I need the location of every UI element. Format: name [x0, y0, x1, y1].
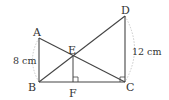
measure-ab: 8 cm [13, 55, 36, 66]
right-angle-mark-f [73, 77, 78, 82]
geometry-diagram: A B C D E F 8 cm 12 cm [0, 0, 169, 100]
label-d: D [121, 4, 130, 17]
label-a: A [32, 26, 42, 39]
measure-cd: 12 cm [132, 46, 161, 57]
label-b: B [28, 81, 36, 94]
label-e: E [68, 44, 76, 57]
label-f: F [69, 87, 77, 100]
segment-bd [39, 16, 125, 82]
segment-ac [39, 38, 125, 82]
label-c: C [126, 81, 134, 94]
